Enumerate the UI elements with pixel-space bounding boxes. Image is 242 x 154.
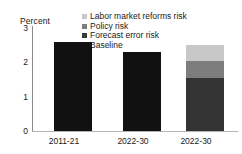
y-tick-label-0: 0 <box>14 126 28 136</box>
bar-segment-baseline <box>54 42 92 131</box>
bar-segment-labor-market-reforms-risk <box>186 45 224 60</box>
bar-segment-baseline <box>186 78 224 131</box>
legend-item-label: Baseline <box>90 41 123 51</box>
bar-segment-baseline <box>123 52 161 131</box>
legend-swatch-icon <box>82 24 87 29</box>
x-axis-line <box>32 131 238 132</box>
legend-swatch-icon <box>82 14 87 19</box>
x-tick-label-1: 2022-30 <box>103 136 163 146</box>
bar-segment-policy-risk <box>186 61 224 78</box>
bar-2011-21[interactable] <box>54 42 92 131</box>
x-tick-label-0: 2011-21 <box>34 136 94 146</box>
chart-legend: Labor market reforms risk Policy risk Fo… <box>82 12 187 50</box>
legend-swatch-icon <box>82 43 87 48</box>
legend-item-baseline[interactable]: Baseline <box>82 41 187 51</box>
chart-figure: Percent 3 2 1 0 2011-21 2022-30 2022-30 … <box>0 0 242 154</box>
y-tick-label-3: 3 <box>14 23 28 33</box>
bar-2022-30-stacked[interactable] <box>186 45 224 131</box>
y-tick-label-2: 2 <box>14 57 28 67</box>
legend-swatch-icon <box>82 33 87 38</box>
bar-2022-30-baseline[interactable] <box>123 52 161 131</box>
x-tick-label-2: 2022-30 <box>166 136 226 146</box>
y-tick-label-1: 1 <box>14 92 28 102</box>
